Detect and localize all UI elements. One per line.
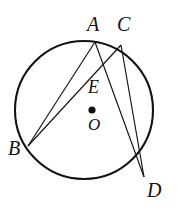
chord-cb: [28, 45, 121, 146]
geometry-figure: A C B D E O: [0, 0, 187, 215]
point-label-d: D: [147, 180, 161, 200]
point-label-o: O: [88, 116, 100, 133]
point-label-e: E: [88, 78, 99, 96]
center-point-dot: [88, 106, 95, 113]
point-label-c: C: [117, 14, 130, 34]
point-label-b: B: [8, 138, 20, 158]
point-label-a: A: [87, 14, 99, 34]
chord-cd: [121, 45, 144, 177]
chord-ad: [95, 42, 144, 177]
